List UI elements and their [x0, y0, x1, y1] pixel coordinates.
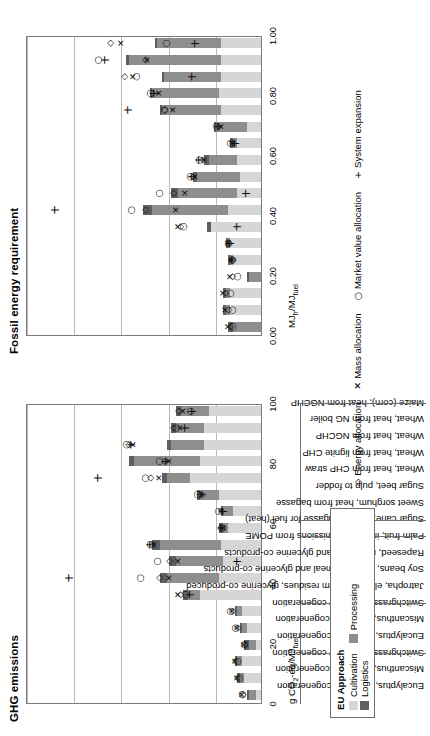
marker-legend-market-value-allocation[interactable]: ○Market value allocation — [352, 192, 363, 300]
marker-legend: ◇Energy allocation✕Mass allocation○Marke… — [352, 90, 363, 486]
marker-system-expansion: + — [193, 155, 205, 165]
bar-segment-cultivation — [200, 456, 261, 466]
marker-legend-system-expansion[interactable]: +System expansion — [352, 90, 363, 179]
bar-segment-processing — [160, 540, 221, 550]
bar-segment-logistics — [247, 272, 249, 282]
bar-ghg-12[interactable] — [25, 490, 261, 500]
bar-segment-cultivation — [219, 88, 261, 98]
marker-mass-allocation: ✕ — [155, 474, 164, 482]
legend-label-logistics: Logistics — [359, 661, 370, 697]
bar-ghg-16[interactable] — [25, 423, 261, 433]
legend-item-processing[interactable]: Processing — [348, 584, 359, 643]
bar-fossil-15[interactable] — [25, 72, 261, 82]
marker-system-expansion: + — [212, 122, 224, 132]
category-label-12: Sugar beet, pulp to fodder — [316, 481, 424, 492]
legend-label-cultivation: Cultivation — [348, 653, 359, 697]
marker-system-expansion: + — [144, 540, 156, 550]
legend-item-logistics[interactable]: Logistics — [359, 661, 370, 710]
fossil-tick-0.00: 0.00 — [268, 318, 278, 354]
marker-label-system-expansion: System expansion — [352, 90, 363, 168]
marker-market-value-allocation: ○ — [232, 657, 242, 665]
bar-segment-cultivation — [219, 490, 261, 500]
bar-ghg-2[interactable] — [25, 656, 261, 666]
marker-system-expansion: + — [148, 88, 160, 98]
marker-mass-allocation: ✕ — [169, 106, 178, 114]
bar-segment-cultivation — [256, 690, 261, 700]
marker-system-expansion: + — [189, 38, 201, 48]
bar-fossil-12[interactable] — [25, 122, 261, 132]
rotated-figure: GHG emissions ◇◇◇◇◇◇◇◇◇◇◇◇◇◇◇◇◇◇✕✕✕✕✕✕✕✕… — [0, 0, 430, 736]
bar-fossil-6[interactable] — [25, 222, 261, 232]
stack-legend: EU Approach CultivationProcessingLogisti… — [330, 508, 375, 718]
bar-fossil-8[interactable] — [25, 188, 261, 198]
marker-market-value-allocation: ○ — [136, 574, 146, 582]
marker-market-value-allocation: ○ — [140, 474, 150, 482]
stack-legend-title: EU Approach — [335, 516, 346, 710]
bar-segment-cultivation — [242, 606, 261, 616]
bar-segment-logistics — [126, 55, 128, 65]
marker-system-expansion: + — [160, 456, 172, 466]
marker-market-value-allocation: ○ — [232, 273, 242, 281]
legend-swatch-logistics — [360, 701, 369, 710]
bar-segment-cultivation — [204, 423, 261, 433]
bar-segment-cultivation — [221, 72, 261, 82]
marker-glyph-system-expansion: + — [352, 171, 363, 179]
bar-segment-processing — [167, 473, 191, 483]
category-label-6: Jatropha, electricity from residues, gly… — [186, 581, 424, 592]
marker-system-expansion: + — [49, 205, 61, 215]
bar-fossil-10[interactable] — [25, 155, 261, 165]
bar-ghg-17[interactable] — [25, 406, 261, 416]
bar-segment-cultivation — [237, 155, 261, 165]
marker-glyph-market-value-allocation: ○ — [352, 292, 363, 300]
category-group-separator — [300, 403, 426, 404]
marker-mass-allocation: ✕ — [171, 206, 180, 214]
legend-item-cultivation[interactable]: Cultivation — [348, 653, 359, 710]
bar-segment-cultivation — [228, 205, 261, 215]
marker-mass-allocation: ✕ — [117, 40, 126, 48]
marker-market-value-allocation: ○ — [235, 674, 245, 682]
marker-glyph-energy-allocation: ◇ — [352, 479, 363, 486]
bar-ghg-0[interactable] — [25, 690, 261, 700]
bar-segment-cultivation — [221, 105, 261, 115]
bar-segment-logistics — [167, 440, 172, 450]
marker-system-expansion: + — [63, 573, 75, 583]
bar-ghg-15[interactable] — [25, 440, 261, 450]
marker-market-value-allocation: ○ — [131, 73, 141, 81]
fossil-axis-caption: MJfr/MJfuel — [286, 284, 299, 328]
bar-ghg-4[interactable] — [25, 623, 261, 633]
marker-mass-allocation: ✕ — [181, 190, 190, 198]
marker-system-expansion: + — [229, 138, 241, 148]
marker-market-value-allocation: ○ — [152, 557, 162, 565]
bar-segment-processing — [249, 640, 256, 650]
fossil-tick-0.60: 0.60 — [268, 138, 278, 174]
ghg-panel-title: GHG emissions — [8, 635, 20, 722]
stack-legend-items: CultivationProcessingLogistics — [348, 516, 370, 710]
bar-segment-processing — [242, 623, 247, 633]
marker-system-expansion: + — [186, 72, 198, 82]
fossil-panel-title: Fossil energy requirement — [8, 208, 20, 354]
legend-swatch-processing — [349, 634, 358, 643]
marker-market-value-allocation: ○ — [225, 289, 235, 297]
bar-segment-cultivation — [247, 122, 261, 132]
fossil-tick-0.80: 0.80 — [268, 78, 278, 114]
marker-market-value-allocation: ○ — [161, 39, 171, 47]
fossil-tick-0.20: 0.20 — [268, 258, 278, 294]
ghg-tick-100: 100 — [268, 386, 278, 422]
category-label-16: Wheat, heat from NG boiler — [310, 414, 424, 425]
bar-segment-logistics — [247, 690, 249, 700]
bar-fossil-17[interactable] — [25, 38, 261, 48]
marker-system-expansion: + — [122, 105, 134, 115]
bar-segment-cultivation — [242, 656, 261, 666]
figure-canvas: GHG emissions ◇◇◇◇◇◇◇◇◇◇◇◇◇◇◇◇◇◇✕✕✕✕✕✕✕✕… — [0, 0, 430, 736]
bar-ghg-14[interactable] — [25, 456, 261, 466]
ghg-tick-80: 80 — [268, 446, 278, 482]
bar-fossil-9[interactable] — [25, 172, 261, 182]
bar-segment-cultivation — [221, 38, 261, 48]
marker-legend-energy-allocation[interactable]: ◇Energy allocation — [352, 403, 363, 486]
bar-ghg-3[interactable] — [25, 640, 261, 650]
marker-legend-mass-allocation[interactable]: ✕Mass allocation — [352, 313, 363, 389]
bar-ghg-1[interactable] — [25, 673, 261, 683]
bar-fossil-13[interactable] — [25, 105, 261, 115]
bar-segment-processing — [152, 205, 228, 215]
marker-market-value-allocation: ○ — [178, 223, 188, 231]
